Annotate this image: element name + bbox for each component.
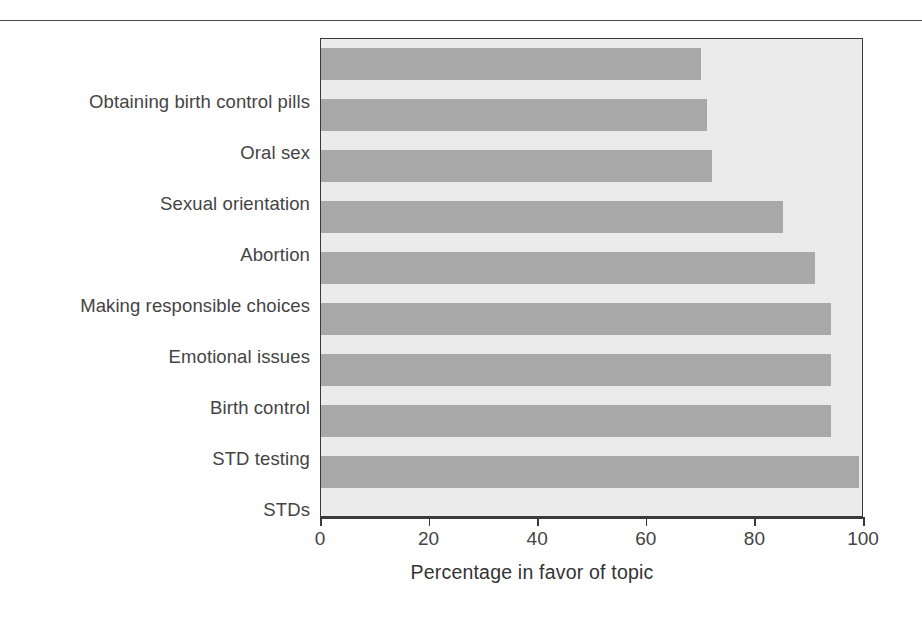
bar xyxy=(321,354,831,386)
x-tick-label: 80 xyxy=(744,528,765,550)
top-horizontal-rule xyxy=(0,20,922,21)
x-tick-label: 0 xyxy=(315,528,326,550)
x-tick-mark xyxy=(320,517,322,526)
category-axis-labels: Obtaining birth control pills Oral sex S… xyxy=(0,38,310,517)
x-tick-mark xyxy=(537,517,539,526)
x-tick-label: 20 xyxy=(418,528,439,550)
bar xyxy=(321,456,859,488)
bar xyxy=(321,48,701,80)
category-label: Sexual orientation xyxy=(0,194,310,214)
bar xyxy=(321,303,831,335)
x-tick-label: 100 xyxy=(847,528,879,550)
bar xyxy=(321,405,831,437)
bar xyxy=(321,99,707,131)
category-label: Abortion xyxy=(0,245,310,265)
x-tick-label: 60 xyxy=(635,528,656,550)
category-label: Oral sex xyxy=(0,143,310,163)
plot-area xyxy=(320,38,863,517)
category-label: STDs xyxy=(0,500,310,520)
x-tick-mark xyxy=(754,517,756,526)
bar-chart-figure: Obtaining birth control pills Oral sex S… xyxy=(0,0,922,618)
category-label: Obtaining birth control pills xyxy=(0,92,310,112)
category-label: STD testing xyxy=(0,449,310,469)
x-tick-mark xyxy=(646,517,648,526)
bar xyxy=(321,252,815,284)
x-axis-title-text: Percentage in favor of topic xyxy=(411,561,654,584)
bars-layer xyxy=(321,39,862,516)
x-tick-mark xyxy=(429,517,431,526)
x-tick-mark xyxy=(863,517,865,526)
category-label: Emotional issues xyxy=(0,347,310,367)
x-axis-title: Percentage in favor of topic xyxy=(0,561,922,584)
category-label: Birth control xyxy=(0,398,310,418)
bar xyxy=(321,150,712,182)
x-axis-line xyxy=(320,517,863,519)
x-tick-label: 40 xyxy=(527,528,548,550)
bar xyxy=(321,201,783,233)
category-label: Making responsible choices xyxy=(0,296,310,316)
